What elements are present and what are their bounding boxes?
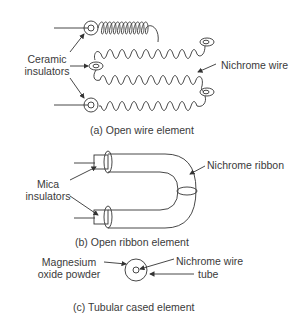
- nichrome-wire-label-a: Nichrome wire: [221, 59, 288, 71]
- label-line: Mica: [20, 178, 76, 190]
- ceramic-insulators-label: Ceramic insulators: [18, 53, 76, 77]
- label-line: insulators: [18, 65, 76, 77]
- caption-a: (a) Open wire element: [90, 124, 194, 136]
- magnesium-oxide-powder-label: Magnesium oxide powder: [36, 256, 102, 280]
- label-line: insulators: [20, 190, 76, 202]
- label-line: Magnesium: [36, 256, 102, 268]
- caption-c: (c) Tubular cased element: [73, 301, 194, 313]
- label-line: oxide powder: [36, 268, 102, 280]
- open-ribbon-element: [70, 151, 205, 228]
- open-wire-element: [54, 21, 216, 112]
- caption-b: (b) Open ribbon element: [75, 236, 189, 248]
- mica-insulators-label: Mica insulators: [20, 178, 76, 202]
- tube-label: tube: [198, 268, 218, 280]
- nichrome-ribbon-label: Nichrome ribbon: [207, 159, 284, 171]
- nichrome-wire-label-c: Nichrome wire: [176, 255, 243, 267]
- label-line: Ceramic: [18, 53, 76, 65]
